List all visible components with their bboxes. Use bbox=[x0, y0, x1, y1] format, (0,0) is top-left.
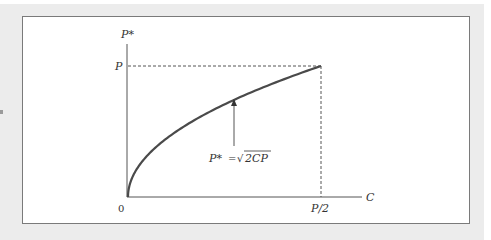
x-axis-label: C bbox=[366, 191, 375, 204]
formula-rhs: 2CP bbox=[244, 152, 268, 165]
formula-lhs: P* bbox=[208, 152, 222, 165]
sqrt-curve bbox=[128, 66, 321, 197]
x-tick-label-p-half: P/2 bbox=[310, 202, 329, 215]
y-tick-label-p: P bbox=[114, 60, 123, 73]
y-axis-label: P* bbox=[120, 28, 134, 41]
diagram-canvas: P* P 0 P/2 C P* = √ 2CP bbox=[0, 0, 491, 240]
origin-label: 0 bbox=[118, 203, 124, 214]
formula-radical: √ bbox=[237, 153, 244, 164]
formula-equals: = bbox=[228, 153, 236, 164]
